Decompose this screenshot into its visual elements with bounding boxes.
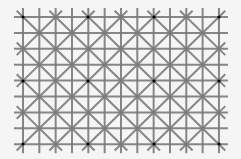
black-dot: [86, 15, 89, 18]
black-dot: [217, 79, 220, 82]
black-dot: [217, 142, 220, 145]
black-dot: [217, 15, 220, 18]
black-dot: [152, 79, 155, 82]
black-dot: [21, 15, 24, 18]
black-dot: [86, 79, 89, 82]
black-dot: [21, 142, 24, 145]
black-dot: [152, 142, 155, 145]
illusion-grid: [0, 0, 241, 159]
black-dot: [152, 15, 155, 18]
black-dot: [86, 142, 89, 145]
black-dot: [21, 79, 24, 82]
